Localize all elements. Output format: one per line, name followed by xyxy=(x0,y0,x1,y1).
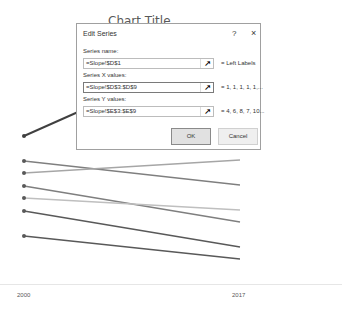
x-tick-2017: 2017 xyxy=(232,292,245,298)
collapse-dialog-icon[interactable]: 🡕 xyxy=(200,59,213,68)
series-name-value: =Slope!$D$1 xyxy=(86,60,121,66)
ok-button[interactable]: OK xyxy=(171,128,211,145)
y-values-preview: = 4, 6, 8, 7, 10... xyxy=(221,108,265,114)
series-name-preview: = Left Labels xyxy=(221,60,256,66)
series-line-2[interactable] xyxy=(22,159,240,185)
collapse-dialog-icon[interactable]: 🡕 xyxy=(200,83,213,92)
series-name-input[interactable]: =Slope!$D$1 🡕 xyxy=(83,58,214,69)
collapse-dialog-icon[interactable]: 🡕 xyxy=(200,107,213,116)
close-icon[interactable]: × xyxy=(251,28,256,38)
x-values-preview: = 1, 1, 1, 1, 1,... xyxy=(221,84,263,90)
series-name-label: Series name: xyxy=(83,48,118,54)
y-values-value: =Slope!$E$3:$E$9 xyxy=(86,108,136,114)
y-values-label: Series Y values: xyxy=(83,96,126,102)
x-axis-line xyxy=(0,284,342,285)
x-tick-2000: 2000 xyxy=(17,292,30,298)
series-line-7[interactable] xyxy=(22,234,240,259)
edit-series-dialog: Edit Series ? × Series name: =Slope!$D$1… xyxy=(76,23,261,150)
cancel-button[interactable]: Cancel xyxy=(218,128,258,145)
dialog-title: Edit Series xyxy=(83,30,117,37)
help-button[interactable]: ? xyxy=(232,29,236,38)
x-values-value: =Slope!$D$3:$D$9 xyxy=(86,84,137,90)
x-values-label: Series X values: xyxy=(83,72,126,78)
series-line-6[interactable] xyxy=(22,209,240,247)
y-values-input[interactable]: =Slope!$E$3:$E$9 🡕 xyxy=(83,106,214,117)
x-values-input[interactable]: =Slope!$D$3:$D$9 🡕 xyxy=(83,82,214,93)
series-line-5[interactable] xyxy=(22,196,240,210)
